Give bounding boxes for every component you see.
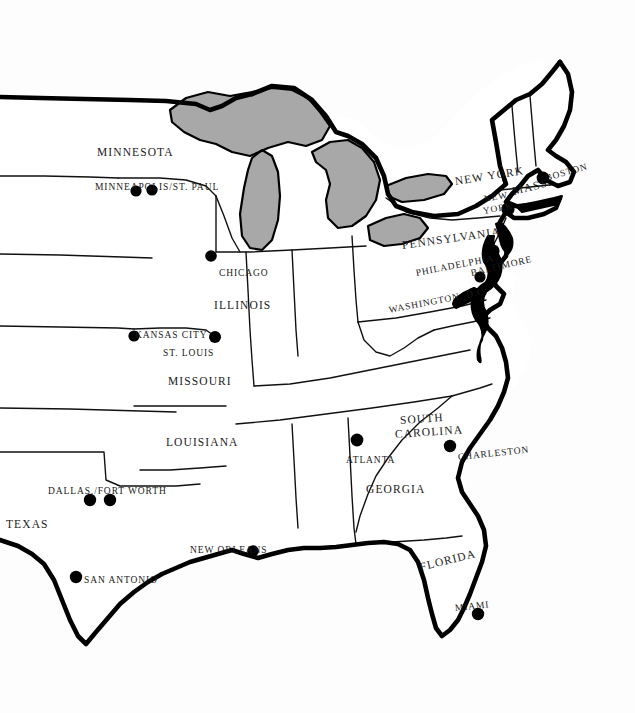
city-dot-new-york [501, 202, 514, 215]
city-dot-minneapolis [130, 185, 141, 196]
city-dot-fort-worth [104, 494, 116, 506]
city-dot-saint-paul [146, 184, 157, 195]
city-dot-washington [467, 287, 480, 300]
city-dot-dallas [84, 494, 96, 506]
city-dot-boston [537, 172, 550, 185]
land-layer [0, 60, 578, 646]
city-dot-baltimore [474, 271, 485, 282]
land-mass [0, 60, 578, 646]
map-graphic [0, 0, 635, 713]
city-dot-chicago [205, 250, 217, 262]
city-dot-charleston [444, 440, 456, 452]
city-dot-philadelphia [486, 244, 499, 257]
city-dot-san-antonio [70, 571, 82, 583]
map-container: MINNESOTAILLINOISMISSOURILOUISIANATEXASG… [0, 0, 635, 713]
city-dot-new-orleans [247, 545, 259, 557]
city-dot-miami [472, 608, 484, 620]
city-dot-st-louis [209, 331, 221, 343]
city-dot-kansas-city [128, 330, 139, 341]
city-dot-atlanta [351, 434, 364, 447]
